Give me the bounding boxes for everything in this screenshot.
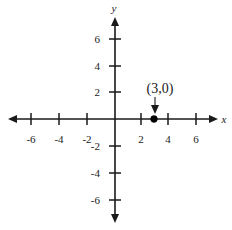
x-tick-label-4: 4 [165, 133, 171, 145]
x-axis-label: x [221, 113, 227, 125]
x-axis-left-arrow-icon [8, 115, 17, 123]
y-tick-label-2: 2 [95, 86, 101, 98]
x-tick-label-minus6: -6 [26, 133, 36, 145]
x-tick-label-2: 2 [138, 133, 144, 145]
y-axis-top-arrow-icon [111, 17, 119, 26]
coordinate-plane-svg: -6 -4 -2 2 4 6 6 4 2 -2 -4 -6 x y (3,0) [0, 0, 232, 230]
x-tick-label-minus4: -4 [54, 133, 64, 145]
data-point-3-0 [151, 116, 158, 123]
point-annotation-label: (3,0) [147, 81, 174, 97]
coordinate-plane-figure: -6 -4 -2 2 4 6 6 4 2 -2 -4 -6 x y (3,0) [0, 0, 232, 230]
y-axis-label: y [111, 2, 117, 14]
y-tick-label-minus2: -2 [91, 140, 100, 152]
down-arrow-icon [151, 105, 159, 114]
y-tick-label-minus6: -6 [91, 194, 101, 206]
y-tick-label-minus4: -4 [91, 167, 101, 179]
y-tick-label-4: 4 [95, 60, 101, 72]
x-axis-right-arrow-icon [209, 115, 218, 123]
y-axis-bottom-arrow-icon [111, 214, 119, 223]
y-tick-label-6: 6 [95, 33, 101, 45]
x-tick-label-6: 6 [193, 133, 199, 145]
